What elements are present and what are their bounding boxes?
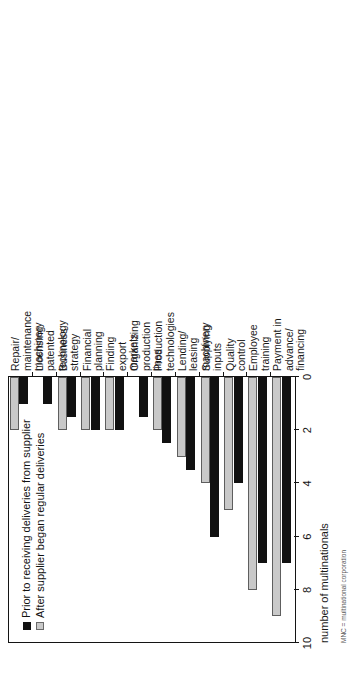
bar-after <box>224 377 233 510</box>
legend-swatch-light-icon <box>36 622 44 630</box>
legend-item-after: After supplier began regular deliveries <box>34 419 48 630</box>
category-label: Financial planning <box>82 311 105 371</box>
chart-figure: 1086420 Payment in advance/ financingEmp… <box>0 0 356 674</box>
bar-after <box>58 377 67 430</box>
bar-prior <box>43 377 52 404</box>
bar-prior <box>19 377 28 404</box>
category-tick <box>270 372 271 377</box>
bar-prior <box>139 377 148 417</box>
legend-item-prior: Prior to receiving deliveries from suppl… <box>20 419 34 630</box>
category-label: Quality control <box>225 311 248 371</box>
bar-prior <box>234 377 243 483</box>
category-axis-labels: Payment in advance/ financingEmployee tr… <box>8 309 294 371</box>
value-tick-0 <box>294 376 299 377</box>
bar-after <box>105 377 114 430</box>
bar-after <box>153 377 162 430</box>
bar-after <box>81 377 90 430</box>
bar-after <box>272 377 281 616</box>
category-label: Repair/ maintenance machinery <box>10 311 45 371</box>
category-tick <box>80 372 81 377</box>
bar-after <box>248 377 257 590</box>
category-label: Payment in advance/ financing <box>272 311 307 371</box>
value-tick-4 <box>294 482 299 483</box>
category-tick <box>223 372 224 377</box>
value-tick-label-4: 4 <box>301 480 313 486</box>
bar-group <box>223 377 247 674</box>
chart-legend: Prior to receiving deliveries from suppl… <box>20 419 47 630</box>
value-tick-label-8: 8 <box>301 587 313 593</box>
value-tick-label-10: 10 <box>301 637 313 649</box>
figure-caption: MNC = multinational corporation <box>340 550 348 643</box>
bar-group <box>199 377 223 674</box>
value-tick-label-6: 6 <box>301 534 313 540</box>
legend-label-prior: Prior to receiving deliveries from suppl… <box>20 419 34 618</box>
bars-layer <box>8 377 294 674</box>
bar-prior <box>67 377 76 417</box>
category-label: Lending/ leasing machinery <box>177 311 212 371</box>
bar-group <box>103 377 127 674</box>
category-tick <box>103 372 104 377</box>
value-tick-10 <box>294 642 299 643</box>
value-tick-6 <box>294 536 299 537</box>
category-tick <box>246 372 247 377</box>
bar-after <box>201 377 210 483</box>
bar-prior <box>258 377 267 563</box>
legend-swatch-dark-icon <box>23 622 31 630</box>
value-tick-8 <box>294 589 299 590</box>
value-tick-label-0: 0 <box>301 374 313 380</box>
bar-group <box>56 377 80 674</box>
bar-prior <box>91 377 100 430</box>
bar-after <box>177 377 186 457</box>
value-tick-2 <box>294 429 299 430</box>
bar-group <box>127 377 151 674</box>
bar-prior <box>282 377 291 563</box>
category-tick <box>175 372 176 377</box>
category-tick <box>127 372 128 377</box>
bar-group <box>270 377 294 674</box>
category-tick <box>32 372 33 377</box>
bar-prior <box>186 377 195 470</box>
bar-prior <box>210 377 219 537</box>
legend-label-after: After supplier began regular deliveries <box>34 433 48 618</box>
category-tick <box>56 372 57 377</box>
bar-prior <box>115 377 124 430</box>
bar-group <box>151 377 175 674</box>
category-tick <box>199 372 200 377</box>
category-label: Finding export markets <box>105 311 140 371</box>
category-tick <box>151 372 152 377</box>
bar-prior <box>162 377 171 444</box>
category-label: Employee training <box>248 311 271 371</box>
value-axis-title: number of multinationals <box>318 523 330 643</box>
bar-group <box>80 377 104 674</box>
bar-after <box>10 377 19 430</box>
value-tick-label-2: 2 <box>301 427 313 433</box>
bar-group <box>246 377 270 674</box>
bar-group <box>175 377 199 674</box>
